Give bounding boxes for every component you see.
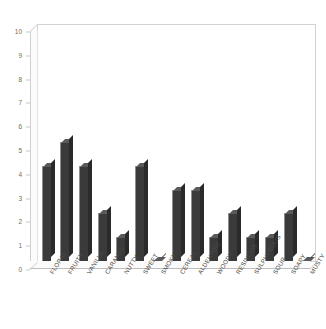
bar-slot — [93, 24, 112, 269]
bar-chart: 012345678910 FLORALFRUITYVANILLACARAMELN… — [0, 0, 326, 329]
y-axis-tick-mark — [26, 32, 30, 33]
bar[interactable] — [79, 166, 88, 261]
y-axis-tick-label: 6 — [18, 124, 22, 131]
y-axis-tick-mark — [26, 127, 30, 128]
bar[interactable] — [42, 166, 51, 261]
bar-slot — [111, 24, 130, 269]
bar-slot — [242, 24, 261, 269]
y-axis-tick-mark — [26, 55, 30, 56]
bar-slot — [279, 24, 298, 269]
y-axis-tick-label: 10 — [15, 29, 22, 36]
y-axis-tick-mark — [26, 222, 30, 223]
bar-slot — [260, 24, 279, 269]
y-axis-tick-label: 3 — [18, 195, 22, 202]
bar-slot — [204, 24, 223, 269]
y-axis-tick-mark — [26, 151, 30, 152]
bar[interactable] — [135, 166, 144, 261]
bar[interactable] — [284, 213, 293, 261]
bar-slot — [167, 24, 186, 269]
bars-layer — [37, 24, 316, 269]
bar[interactable] — [172, 190, 181, 261]
bar-slot — [149, 24, 168, 269]
y-axis-tick-mark — [26, 103, 30, 104]
bar[interactable] — [60, 142, 69, 261]
y-axis-tick-mark — [26, 174, 30, 175]
bar-slot — [223, 24, 242, 269]
y-axis-tick-label: 1 — [18, 243, 22, 250]
y-axis: 012345678910 — [0, 24, 30, 276]
x-axis-labels: FLORALFRUITYVANILLACARAMELNUTTYSWEETSMOK… — [37, 272, 316, 329]
y-axis-tick-mark — [26, 79, 30, 80]
y-axis-tick-label: 7 — [18, 100, 22, 107]
bar-slot — [297, 24, 316, 269]
y-axis-tick-mark — [26, 246, 30, 247]
y-axis-tick-mark — [26, 270, 30, 271]
y-axis-tick-label: 0 — [18, 267, 22, 274]
y-axis-tick-label: 8 — [18, 76, 22, 83]
bar-slot — [130, 24, 149, 269]
bar-slot — [74, 24, 93, 269]
y-axis-tick-label: 5 — [18, 148, 22, 155]
y-axis-tick-label: 4 — [18, 172, 22, 179]
bar-slot — [37, 24, 56, 269]
y-axis-tick-label: 9 — [18, 53, 22, 60]
y-axis-tick-mark — [26, 198, 30, 199]
y-axis-tick-label: 2 — [18, 219, 22, 226]
bar-slot — [186, 24, 205, 269]
bar-slot — [56, 24, 75, 269]
